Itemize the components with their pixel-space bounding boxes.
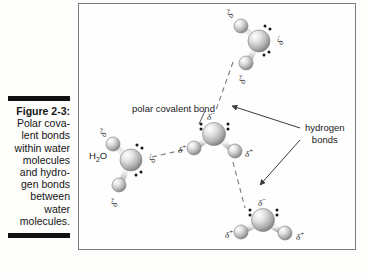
center-molecule-hydrogen-1-charge: δ+ bbox=[178, 143, 186, 155]
hydrogen-bonds-label-line1: hydrogen bbox=[305, 122, 345, 134]
h2o-label: H2O bbox=[89, 150, 107, 163]
top-water-molecule bbox=[234, 19, 272, 70]
center-molecule-oxygen-atom bbox=[203, 123, 226, 146]
center-molecule-oxygen-charge: δ− bbox=[207, 110, 215, 122]
bottom-molecule-hydrogen-1-charge: δ+ bbox=[225, 228, 233, 240]
top-molecule-oxygen-atom bbox=[248, 30, 270, 52]
bottom-molecule-hydrogen-2-charge: δ+ bbox=[296, 230, 304, 242]
center-molecule-hydrogen-atom-1 bbox=[187, 141, 201, 155]
left-molecule-oxygen-atom bbox=[120, 149, 142, 171]
hydrogen-bond-top bbox=[216, 62, 233, 110]
bottom-molecule-oxygen-atom bbox=[252, 209, 275, 232]
hydrogen-bonds-label: hydrogen bonds bbox=[305, 122, 345, 146]
center-water-molecule bbox=[187, 123, 242, 159]
bottom-water-molecule bbox=[234, 209, 292, 241]
hydrogen-bond-bottom bbox=[233, 162, 245, 208]
bottom-molecule-oxygen-charge: δ− bbox=[258, 196, 266, 208]
bottom-molecule-hydrogen-atom-2 bbox=[278, 226, 292, 240]
hydrogen-bonds-label-line2: bonds bbox=[305, 134, 345, 146]
hydrogen-bonds-arrow-lower bbox=[260, 140, 300, 185]
hydrogen-bond-dashed-lines bbox=[152, 62, 245, 208]
top-molecule-hydrogen-atom-2 bbox=[239, 56, 253, 70]
bottom-molecule-hydrogen-atom-1 bbox=[234, 225, 248, 239]
left-molecule-hydrogen-atom-2 bbox=[112, 178, 126, 192]
figure-page: Figure 2-3: Polar cova- lent bonds withi… bbox=[0, 0, 368, 274]
center-molecule-hydrogen-atom-2 bbox=[228, 144, 242, 158]
polar-covalent-bond-label: polar covalent bond bbox=[132, 103, 215, 114]
top-molecule-hydrogen-atom-1 bbox=[234, 19, 248, 33]
left-molecule-hydrogen-atom-1 bbox=[106, 137, 120, 151]
center-molecule-hydrogen-2-charge: δ+ bbox=[245, 147, 253, 159]
left-water-molecule bbox=[106, 137, 144, 192]
hydrogen-bonds-arrow-upper bbox=[232, 106, 300, 128]
